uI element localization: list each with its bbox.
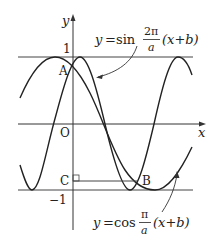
point-b-label: B	[142, 174, 151, 188]
origin-label: O	[60, 126, 70, 140]
sin-eq-argument: (x+b)	[162, 32, 199, 47]
cos-eq-y: y	[92, 215, 101, 230]
sin-equation-label: y = sin 2π a (x+b)	[94, 25, 199, 54]
sin-pointer-arrowhead-icon	[96, 75, 103, 80]
cos-equation-label: y = cos π a (x+b)	[92, 208, 190, 237]
tick-label-minus-1: −1	[49, 193, 67, 207]
x-axis-label: x	[198, 125, 206, 140]
point-a-label: A	[58, 64, 68, 78]
cos-eq-argument: (x+b)	[153, 215, 190, 230]
sin-eq-fn: sin	[116, 32, 136, 47]
trig-diagram: y x O 1 −1 A B C y = sin 2π a (x+b) y = …	[0, 0, 215, 246]
sin-eq-equals: =	[105, 32, 116, 47]
point-c-label: C	[60, 174, 69, 188]
cos-eq-denominator: a	[141, 224, 148, 237]
tick-label-1: 1	[63, 42, 71, 56]
sin-eq-numerator: 2π	[144, 25, 158, 38]
sin-eq-denominator: a	[148, 41, 155, 54]
sin-label-pointer	[98, 46, 137, 77]
cos-eq-fn: cos	[114, 215, 136, 230]
cos-eq-numerator: π	[141, 208, 148, 221]
y-axis-label: y	[61, 13, 70, 28]
cos-label-pointer	[162, 174, 177, 212]
right-angle-mark	[73, 175, 79, 181]
sin-eq-y: y	[94, 32, 103, 47]
cos-eq-equals: =	[103, 215, 114, 230]
y-axis-arrow-icon	[71, 14, 76, 21]
